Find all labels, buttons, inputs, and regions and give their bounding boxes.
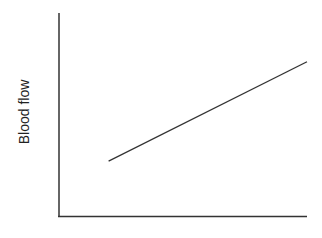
y-axis-label: Blood flow	[16, 80, 32, 145]
chart: Blood flow	[0, 0, 322, 238]
data-line	[109, 62, 307, 161]
chart-plot	[0, 0, 322, 238]
